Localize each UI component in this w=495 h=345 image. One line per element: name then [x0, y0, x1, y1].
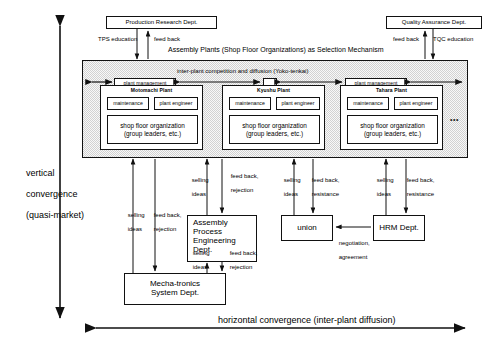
t: selling	[193, 250, 210, 256]
kyushu-plant-engineer-box[interactable]: plant engineer	[276, 97, 320, 110]
mechatronics-system-dept-box[interactable]: Mecha-tronics System Dept.	[124, 273, 226, 305]
t: agreement	[339, 254, 368, 260]
motomachi-maintenance-label: maintenance	[113, 101, 143, 107]
edge-label-feedback-rejection-ape-down: feed back, rejection	[223, 243, 257, 277]
more-plants-ellipsis: •••	[450, 116, 459, 123]
kyushu-shop-floor-line2: (group leaders, etc.)	[246, 130, 303, 137]
t: feed back,	[154, 212, 182, 218]
edge-label-feedback-rejection-ape-up: feed back, rejection	[224, 166, 258, 200]
tqc-education-label: TQC education	[433, 36, 473, 43]
feed-back-right-label: feed back	[393, 36, 419, 43]
union-label: union	[297, 224, 317, 233]
t: ideas	[192, 191, 206, 197]
edge-label-feedback-rejection-mechatronics: feed back, rejection	[147, 205, 181, 239]
horizontal-convergence-label: horizontal convergence (inter-plant diff…	[218, 315, 395, 325]
quality-assurance-dept-box[interactable]: Quality Assurance Dept.	[386, 16, 482, 29]
tps-education-label: TPS education	[98, 36, 137, 43]
t: negotiation,	[339, 240, 370, 246]
production-research-dept-label: Production Research Dept.	[125, 19, 197, 26]
edge-label-selling-ideas-union: selling ideas	[277, 170, 301, 204]
t: selling	[128, 212, 145, 218]
hrm-dept-box[interactable]: HRM Dept.	[373, 215, 425, 241]
t: resistance	[312, 191, 339, 197]
motomachi-shop-floor-box[interactable]: shop floor organization (group leaders, …	[107, 115, 198, 144]
kyushu-plant-box[interactable]: Kyushu Plant maintenance plant engineer …	[222, 85, 325, 150]
edge-label-negotiation-agreement: negotiation, agreement	[332, 233, 370, 267]
t: vertical	[26, 168, 55, 178]
union-box[interactable]: union	[281, 215, 333, 241]
inter-plant-competition-label: inter-plant competition and diffusion (Y…	[177, 68, 308, 75]
t: ideas	[284, 191, 298, 197]
mechatronics-line2: System Dept.	[151, 289, 199, 298]
motomachi-plant-engineer-label: plant engineer	[160, 101, 193, 107]
vertical-convergence-label: vertical convergence (quasi-market)	[16, 158, 84, 230]
kyushu-maintenance-box[interactable]: maintenance	[229, 97, 271, 110]
t: feed back,	[230, 250, 258, 256]
t: rejection	[154, 226, 177, 232]
motomachi-plant-title: Motomachi Plant	[101, 87, 202, 93]
kyushu-plant-title: Kyushu Plant	[223, 87, 324, 93]
edge-label-selling-ideas-mechatronics: selling ideas	[121, 205, 145, 239]
kyushu-shop-floor-line1: shop floor organization	[242, 122, 307, 129]
t: selling	[377, 177, 394, 183]
kyushu-plant-engineer-label: plant engineer	[282, 101, 315, 107]
tahara-shop-floor-line2: (group leaders, etc.)	[364, 130, 421, 137]
tahara-shop-floor-line1: shop floor organization	[360, 122, 425, 129]
kyushu-shop-floor-box[interactable]: shop floor organization (group leaders, …	[229, 115, 320, 144]
edge-label-feedback-resistance-hrm: feed back, resistance	[400, 170, 434, 204]
edge-label-selling-ideas-hrm: selling ideas	[370, 170, 394, 204]
t: ideas	[193, 264, 207, 270]
t: (quasi-market)	[26, 210, 84, 220]
t: selling	[192, 177, 209, 183]
edge-label-selling-ideas-ape-down: selling ideas	[186, 243, 210, 277]
production-research-dept-box[interactable]: Production Research Dept.	[106, 16, 217, 29]
motomachi-plant-engineer-box[interactable]: plant engineer	[154, 97, 198, 110]
tahara-maintenance-label: maintenance	[353, 101, 383, 107]
tahara-shop-floor-box[interactable]: shop floor organization (group leaders, …	[347, 115, 438, 144]
feed-back-left-label: feed back	[154, 36, 180, 43]
motomachi-maintenance-box[interactable]: maintenance	[107, 97, 149, 110]
diagram-canvas: Assembly Plants (Shop Floor Organization…	[0, 0, 495, 345]
diagram-main-title: Assembly Plants (Shop Floor Organization…	[168, 46, 384, 54]
motomachi-shop-floor-line1: shop floor organization	[120, 122, 185, 129]
t: feed back,	[312, 177, 340, 183]
t: feed back,	[407, 177, 435, 183]
motomachi-plant-box[interactable]: Motomachi Plant maintenance plant engine…	[100, 85, 203, 150]
tahara-maintenance-box[interactable]: maintenance	[347, 97, 389, 110]
t: selling	[284, 177, 301, 183]
tahara-plant-title: Tahara Plant	[341, 87, 442, 93]
motomachi-shop-floor-line2: (group leaders, etc.)	[124, 130, 181, 137]
edge-label-feedback-resistance-union: feed back, resistance	[305, 170, 339, 204]
t: resistance	[407, 191, 434, 197]
t: ideas	[128, 226, 142, 232]
tahara-plant-box[interactable]: Tahara Plant maintenance plant engineer …	[340, 85, 443, 150]
t: ideas	[377, 191, 391, 197]
edge-label-selling-ideas-ape-up: selling ideas	[185, 170, 209, 204]
quality-assurance-dept-label: Quality Assurance Dept.	[402, 19, 466, 26]
tahara-plant-engineer-label: plant engineer	[400, 101, 433, 107]
t: rejection	[231, 187, 254, 193]
t: feed back,	[231, 173, 259, 179]
kyushu-maintenance-label: maintenance	[235, 101, 265, 107]
t: convergence	[26, 189, 78, 199]
tahara-plant-engineer-box[interactable]: plant engineer	[394, 97, 438, 110]
hrm-dept-label: HRM Dept.	[379, 224, 419, 233]
t: rejection	[230, 264, 253, 270]
